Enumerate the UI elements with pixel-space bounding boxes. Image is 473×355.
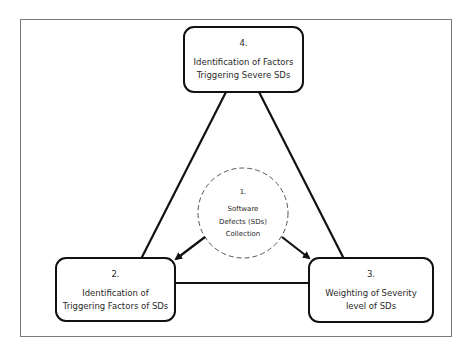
node-1-number: 1.	[240, 188, 247, 196]
node-4-label-line: Identification of Factors	[194, 56, 294, 69]
node-3-weighting-of-severity: 3. Weighting of Severity level of SDs	[308, 257, 434, 323]
node-3-label: Weighting of Severity level of SDs	[325, 287, 416, 313]
arrow-1-to-2	[176, 237, 205, 259]
node-1-label-line: Defects (SDs)	[219, 216, 267, 229]
node-3-label-line: Weighting of Severity	[325, 287, 416, 300]
node-4-number: 4.	[239, 38, 247, 48]
node-4-label-line: Triggering Severe SDs	[194, 69, 294, 82]
node-2-label-line: Identification of	[63, 287, 169, 300]
node-4-identification-of-severe-factors: 4. Identification of Factors Triggering …	[183, 26, 304, 93]
node-1-label-line: Collection	[219, 228, 267, 241]
node-2-label-line: Triggering Factors of SDs	[63, 300, 169, 313]
node-1-label-line: Software	[219, 203, 267, 216]
node-4-label: Identification of Factors Triggering Sev…	[194, 56, 294, 82]
node-1-software-defects-collection: 1. Software Defects (SDs) Collection	[198, 168, 288, 258]
node-2-label: Identification of Triggering Factors of …	[63, 287, 169, 313]
arrow-1-to-3	[282, 237, 309, 258]
node-3-label-line: level of SDs	[325, 300, 416, 313]
node-2-identification-of-triggering-factors: 2. Identification of Triggering Factors …	[55, 257, 176, 322]
node-1-label: Software Defects (SDs) Collection	[219, 203, 267, 241]
node-2-number: 2.	[111, 269, 119, 279]
node-3-number: 3.	[367, 269, 375, 279]
